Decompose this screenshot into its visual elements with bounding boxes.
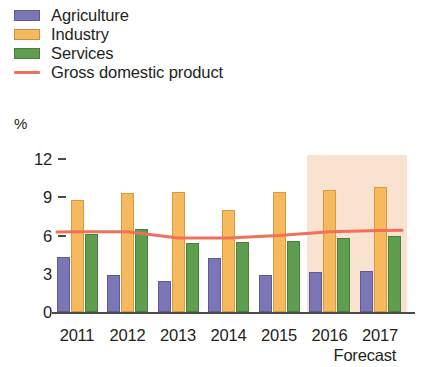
y-axis-tick-mark [58,235,66,237]
x-axis-tick-label: 2017 [355,326,405,344]
bar-industry-2016 [323,190,336,312]
plot-area: 036912 2011201220132014201520162017 Fore… [0,0,423,367]
bar-services-2014 [236,242,249,312]
x-axis-line [52,312,415,314]
x-axis-tick-label: 2013 [153,326,203,344]
x-axis-tick-label: 2014 [204,326,254,344]
x-axis-tick-label: 2015 [254,326,304,344]
bar-industry-2011 [71,200,84,312]
bar-industry-2012 [121,193,134,312]
y-axis-tick-label: 3 [0,265,52,283]
y-axis-tick-label: 9 [0,188,52,206]
bar-agriculture-2014 [208,258,221,312]
bar-agriculture-2016 [309,272,322,312]
x-axis-tick-label: 2011 [52,326,102,344]
bar-services-2016 [337,238,350,312]
bar-industry-2015 [273,192,286,312]
y-axis-tick-label: 12 [0,150,52,168]
y-axis-tick-label: 6 [0,227,52,245]
bar-agriculture-2015 [259,275,272,312]
bar-industry-2013 [172,192,185,312]
x-axis-tick-label: 2012 [103,326,153,344]
bar-services-2017 [388,236,401,313]
bar-services-2015 [287,241,300,312]
x-axis-tick-label: 2016 [305,326,355,344]
bar-agriculture-2011 [57,257,70,312]
y-axis-tick-mark [58,196,66,198]
bar-services-2011 [85,234,98,312]
bar-services-2013 [186,243,199,312]
y-axis-tick-mark [58,158,66,160]
bar-services-2012 [135,229,148,312]
bar-industry-2014 [222,210,235,312]
gdp-sector-growth-chart: AgricultureIndustryServicesGross domesti… [0,0,423,367]
bar-agriculture-2013 [158,281,171,312]
bar-agriculture-2012 [107,275,120,312]
bar-industry-2017 [374,187,387,312]
y-axis-tick-label: 0 [0,303,52,321]
bar-agriculture-2017 [360,271,373,312]
forecast-caption: Forecast [334,346,397,364]
